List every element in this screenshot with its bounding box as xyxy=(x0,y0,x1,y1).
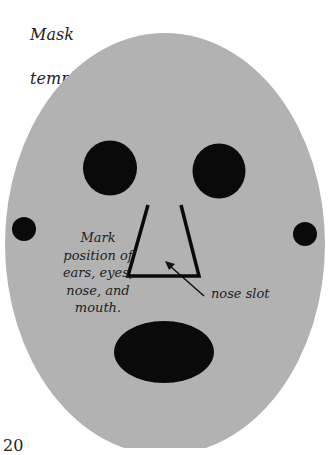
face-outline xyxy=(5,33,325,448)
left-eye-hole xyxy=(83,141,137,196)
note-line: Mark xyxy=(58,229,138,247)
marking-instruction: Mark position of ears, eyes, nose, and m… xyxy=(58,229,138,317)
left-ear-mark xyxy=(12,217,36,241)
right-ear-mark xyxy=(293,222,317,246)
page-number: 20 xyxy=(3,436,23,455)
nose-slot-label: nose slot xyxy=(211,286,270,301)
mouth-hole xyxy=(114,321,214,383)
right-eye-hole xyxy=(193,144,246,199)
note-line: ears, eyes, xyxy=(58,264,138,282)
note-line: mouth. xyxy=(58,299,138,317)
note-line: nose, and xyxy=(58,282,138,300)
note-line: position of xyxy=(58,247,138,265)
